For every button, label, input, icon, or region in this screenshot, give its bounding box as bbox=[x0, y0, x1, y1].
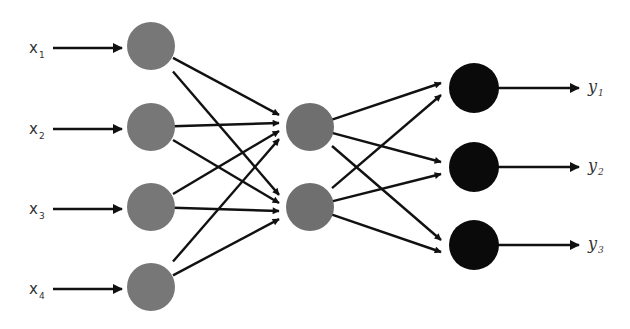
edge-i2-h1 bbox=[173, 123, 279, 126]
label-subscript: 1 bbox=[39, 50, 45, 60]
label-main: x bbox=[29, 200, 38, 218]
labels-layer: x1x2x3x4y1y2y3 bbox=[29, 39, 604, 301]
output-node-o3 bbox=[449, 220, 499, 270]
input-node-i2 bbox=[127, 103, 175, 151]
output-node-o1 bbox=[449, 63, 499, 113]
input-label-i2: x2 bbox=[29, 120, 45, 141]
output-label-o1: y1 bbox=[587, 77, 604, 98]
input-label-i3: x3 bbox=[29, 200, 45, 221]
hidden-node-h1 bbox=[286, 103, 334, 151]
edge-h2-o3 bbox=[332, 215, 441, 252]
label-main: x bbox=[29, 39, 38, 57]
edge-h1-o1 bbox=[332, 83, 441, 120]
edge-i3-h2 bbox=[173, 208, 279, 211]
input-label-i1: x1 bbox=[29, 39, 45, 60]
nodes-layer bbox=[127, 22, 499, 311]
input-node-i4 bbox=[127, 263, 175, 311]
output-node-o2 bbox=[449, 142, 499, 192]
label-subscript: 3 bbox=[598, 245, 604, 255]
edge-h1-o2 bbox=[332, 133, 441, 162]
label-subscript: 3 bbox=[39, 211, 45, 221]
output-label-o2: y2 bbox=[587, 156, 604, 177]
label-main: y bbox=[587, 234, 598, 253]
input-node-i1 bbox=[127, 22, 175, 70]
edge-h1-o3 bbox=[332, 146, 441, 240]
edge-h2-o1 bbox=[332, 95, 441, 188]
hidden-node-h2 bbox=[286, 183, 334, 231]
label-subscript: 2 bbox=[597, 167, 604, 177]
input-label-i4: x4 bbox=[29, 280, 45, 301]
edge-i4-h1 bbox=[173, 139, 279, 261]
neural-network-diagram: x1x2x3x4y1y2y3 bbox=[0, 0, 630, 329]
edge-i1-h1 bbox=[173, 58, 279, 115]
label-main: y bbox=[587, 156, 598, 175]
label-subscript: 4 bbox=[39, 291, 45, 301]
edge-i2-h2 bbox=[173, 140, 279, 203]
label-main: y bbox=[587, 77, 598, 96]
connections-layer bbox=[53, 48, 579, 289]
label-subscript: 1 bbox=[598, 88, 604, 98]
output-label-o3: y3 bbox=[587, 234, 604, 255]
edge-i4-h2 bbox=[173, 219, 279, 275]
edge-i1-h2 bbox=[173, 72, 279, 195]
edge-h2-o2 bbox=[332, 174, 441, 201]
label-main: x bbox=[29, 120, 38, 138]
edge-i3-h1 bbox=[173, 131, 279, 194]
input-node-i3 bbox=[127, 183, 175, 231]
label-main: x bbox=[29, 280, 38, 298]
label-subscript: 2 bbox=[39, 131, 45, 141]
